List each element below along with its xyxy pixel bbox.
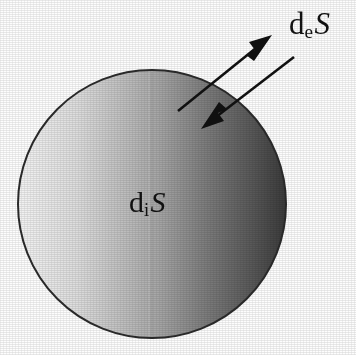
external-entropy-label: deS [289,8,330,39]
internal-label-base: d [129,185,144,218]
internal-label-variable: S [149,185,165,218]
figure-canvas: diS deS [0,0,356,355]
internal-entropy-label: diS [129,187,166,217]
outward-arrow-head [246,35,272,61]
diagram-svg [0,0,356,355]
internal-label-subscript: i [144,199,149,220]
external-label-subscript: e [305,21,314,42]
external-label-base: d [289,6,305,41]
external-label-variable: S [313,6,330,41]
inward-arrow-shaft [216,57,294,117]
